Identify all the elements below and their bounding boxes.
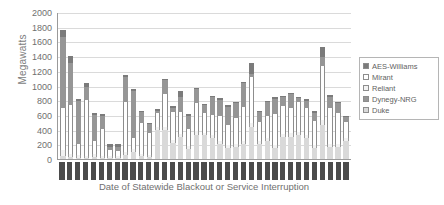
- x-axis-tick: [200, 162, 208, 180]
- bar-stack: [147, 123, 152, 159]
- bar-column[interactable]: [303, 13, 311, 159]
- bar-column[interactable]: [208, 13, 216, 159]
- bar-column[interactable]: [138, 13, 146, 159]
- bar-segment-duke: [304, 138, 309, 159]
- bar-segment-dynegy-nrg: [327, 97, 332, 108]
- bar-column[interactable]: [318, 13, 326, 159]
- bar-column[interactable]: [145, 13, 153, 159]
- legend-item[interactable]: Reliant: [363, 83, 435, 93]
- x-axis-tick: [279, 162, 287, 180]
- bar-segment-duke: [194, 135, 199, 159]
- bar-segment-duke: [280, 137, 285, 159]
- x-axis-tick: [137, 162, 145, 180]
- bar-segment-mirant: [296, 102, 301, 131]
- bar-column[interactable]: [232, 13, 240, 159]
- bar-segment-duke: [186, 149, 191, 159]
- x-axis-tick: [66, 162, 74, 180]
- bar-segment-duke: [272, 148, 277, 159]
- bar-column[interactable]: [161, 13, 169, 159]
- x-axis-title: Date of Statewide Blackout or Service In…: [57, 181, 351, 192]
- bar-segment-mirant: [194, 103, 199, 131]
- bar-stack: [178, 91, 183, 159]
- bar-column[interactable]: [153, 13, 161, 159]
- bar-column[interactable]: [122, 13, 130, 159]
- bar-column[interactable]: [200, 13, 208, 159]
- bar-column[interactable]: [193, 13, 201, 159]
- bar-segment-dynegy-nrg: [92, 115, 97, 141]
- bar-column[interactable]: [248, 13, 256, 159]
- bar-column[interactable]: [263, 13, 271, 159]
- bar-segment-mirant: [123, 102, 128, 152]
- bar-column[interactable]: [59, 13, 67, 159]
- bar-column[interactable]: [130, 13, 138, 159]
- bar-column[interactable]: [255, 13, 263, 159]
- bar-segment-dynegy-nrg: [210, 97, 215, 115]
- bar-segment-duke: [131, 152, 136, 159]
- bar-segment-duke: [217, 144, 222, 159]
- bar-column[interactable]: [295, 13, 303, 159]
- bar-column[interactable]: [216, 13, 224, 159]
- bar-segment-mirant: [280, 106, 285, 134]
- bar-stack: [257, 111, 262, 159]
- bar-column[interactable]: [114, 13, 122, 159]
- legend-item[interactable]: AES-Williams: [363, 61, 435, 71]
- bar-segment-mirant: [312, 121, 317, 145]
- bar-segment-duke: [155, 130, 160, 159]
- bar-column[interactable]: [177, 13, 185, 159]
- bar-segment-mirant: [241, 107, 246, 141]
- bar-segment-mirant: [162, 94, 167, 127]
- bar-column[interactable]: [90, 13, 98, 159]
- x-axis-tick: [90, 162, 98, 180]
- bar-stack: [76, 99, 81, 159]
- bar-column[interactable]: [334, 13, 342, 159]
- bar-column[interactable]: [311, 13, 319, 159]
- plot-area: [57, 13, 351, 160]
- bar-column[interactable]: [75, 13, 83, 159]
- bar-stack: [241, 82, 246, 159]
- bar-stack: [217, 98, 222, 159]
- bar-segment-duke: [210, 138, 215, 159]
- bar-segment-mirant: [233, 118, 238, 144]
- bar-column[interactable]: [279, 13, 287, 159]
- bar-column[interactable]: [240, 13, 248, 159]
- bar-column[interactable]: [67, 13, 75, 159]
- bar-segment-dynegy-nrg: [178, 97, 183, 112]
- legend-swatch-icon: [363, 85, 369, 91]
- x-axis-tick-labels: [57, 162, 351, 180]
- bar-column[interactable]: [326, 13, 334, 159]
- bar-column[interactable]: [271, 13, 279, 159]
- bar-column[interactable]: [224, 13, 232, 159]
- bar-column[interactable]: [83, 13, 91, 159]
- bar-segment-duke: [84, 158, 89, 159]
- x-axis-tick: [105, 162, 113, 180]
- bar-stack: [280, 96, 285, 159]
- bar-segment-duke: [92, 157, 97, 159]
- bar-segment-dynegy-nrg: [288, 94, 293, 108]
- bar-segment-dynegy-nrg: [68, 63, 73, 106]
- bar-column[interactable]: [287, 13, 295, 159]
- bar-segment-duke: [327, 147, 332, 159]
- legend-label: Reliant: [372, 84, 395, 93]
- bar-segment-duke: [178, 137, 183, 159]
- y-axis-tick-label: 400: [14, 126, 52, 136]
- legend-item[interactable]: Mirant: [363, 72, 435, 82]
- bar-column[interactable]: [106, 13, 114, 159]
- x-axis-tick: [97, 162, 105, 180]
- bar-column[interactable]: [169, 13, 177, 159]
- bar-segment-duke: [335, 147, 340, 159]
- bar-segment-dynegy-nrg: [194, 89, 199, 103]
- legend-item[interactable]: Duke: [363, 105, 435, 115]
- legend-item[interactable]: Dynegy-NRG: [363, 94, 435, 104]
- legend-label: Dynegy-NRG: [372, 95, 417, 104]
- bar-stack: [288, 93, 293, 159]
- bar-column[interactable]: [98, 13, 106, 159]
- bar-segment-dynegy-nrg: [139, 112, 144, 123]
- bar-column[interactable]: [342, 13, 350, 159]
- x-axis-tick: [192, 162, 200, 180]
- y-axis-tick-label: 200: [14, 140, 52, 150]
- bar-stack: [107, 144, 112, 159]
- bar-stack: [131, 89, 136, 159]
- y-axis-tick-labels: 2000180016001400120010008006004002000: [14, 8, 52, 160]
- bar-column[interactable]: [185, 13, 193, 159]
- bar-stack: [343, 116, 348, 159]
